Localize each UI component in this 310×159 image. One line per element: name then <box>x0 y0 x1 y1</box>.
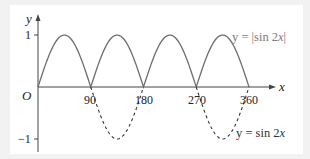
legend-sin: y = sin 2x <box>236 127 285 140</box>
x-axis-arrow-icon <box>269 85 276 90</box>
x-axis-label: x <box>279 80 285 93</box>
y-tick-label-neg1: −1 <box>18 133 31 145</box>
abs-sin-curve <box>38 35 249 87</box>
y-axis-arrow-icon <box>36 14 41 21</box>
legend-sin-var: x <box>280 126 286 140</box>
origin-label: O <box>22 89 31 102</box>
x-tick-label-180: 180 <box>135 94 153 106</box>
legend-abs-suffix: | <box>284 30 287 44</box>
x-tick-label-90: 90 <box>84 94 96 106</box>
legend-sin-text: y = sin 2 <box>236 126 280 140</box>
x-tick-label-360: 360 <box>240 94 258 106</box>
y-axis-label: y <box>26 12 32 25</box>
x-tick-label-270: 270 <box>188 94 206 106</box>
legend-abs-text: y = |sin 2 <box>232 30 278 44</box>
legend-abs-sin: y = |sin 2x| <box>232 31 286 44</box>
sin-curve-negative-dashed <box>91 87 249 139</box>
y-tick-label-1: 1 <box>25 29 31 41</box>
